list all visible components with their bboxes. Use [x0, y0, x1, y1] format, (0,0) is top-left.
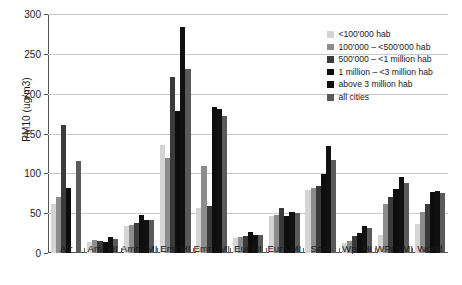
bar-group [157, 14, 193, 253]
y-tick-label: 150 [24, 128, 41, 139]
legend-swatch-icon [327, 69, 334, 76]
bar [76, 161, 81, 253]
bar-group [84, 14, 120, 253]
legend-item[interactable]: all cities [327, 91, 459, 104]
legend-label: <100'000 hab [339, 30, 391, 39]
legend-label: 1 million – <3 million hab [339, 68, 433, 77]
legend-swatch-icon [327, 31, 334, 38]
y-tick-label: 300 [24, 9, 41, 20]
y-tick-label: 50 [30, 208, 41, 219]
legend-label: all cities [339, 93, 370, 102]
x-axis-label: World [412, 243, 448, 254]
y-tick-label: 200 [24, 88, 41, 99]
bar-group [48, 14, 84, 253]
x-axis-label: Sear [303, 243, 339, 254]
legend-swatch-icon [327, 81, 334, 88]
legend-swatch-icon [327, 94, 334, 101]
bar-group [121, 14, 157, 253]
x-axis-label: Wpr HI [339, 243, 375, 254]
bar-group [193, 14, 229, 253]
bar [185, 69, 190, 253]
x-axis-label: Amr HI [84, 243, 120, 254]
legend-item[interactable]: 100'000 – <500'000 hab [327, 41, 459, 54]
y-tick-label: 100 [24, 168, 41, 179]
legend-item[interactable]: 1 million – <3 million hab [327, 66, 459, 79]
y-tick-label: 0 [35, 248, 41, 259]
bar-group [230, 14, 266, 253]
x-axis-label: Amr LMI [121, 243, 157, 254]
legend-swatch-icon [327, 56, 334, 63]
bar [222, 116, 227, 253]
legend-item[interactable]: above 3 million hab [327, 78, 459, 91]
y-tick-label: 250 [24, 48, 41, 59]
x-axis-label: Eur LMI [266, 243, 302, 254]
legend-label: above 3 million hab [339, 80, 413, 89]
chart-legend: <100'000 hab100'000 – <500'000 hab500'00… [327, 28, 459, 104]
legend-label: 500'000 – <1 million hab [339, 55, 432, 64]
bar-group [266, 14, 302, 253]
legend-item[interactable]: <100'000 hab [327, 28, 459, 41]
pm10-bar-chart: PM10 (ug/m3) 050100150200250300 AfrAmr H… [0, 0, 462, 285]
legend-item[interactable]: 500'000 – <1 million hab [327, 53, 459, 66]
y-axis-title: PM10 (ug/m3) [21, 40, 32, 180]
x-axis-label: Afr [48, 243, 84, 254]
bar [331, 160, 336, 253]
legend-swatch-icon [327, 44, 334, 51]
x-axis-label: Emr LMI [193, 243, 229, 254]
x-axis-label: Eur HI [230, 243, 266, 254]
x-axis-label: Emr HI [157, 243, 193, 254]
legend-label: 100'000 – <500'000 hab [339, 43, 431, 52]
x-axis-label: WPr LMI [375, 243, 411, 254]
